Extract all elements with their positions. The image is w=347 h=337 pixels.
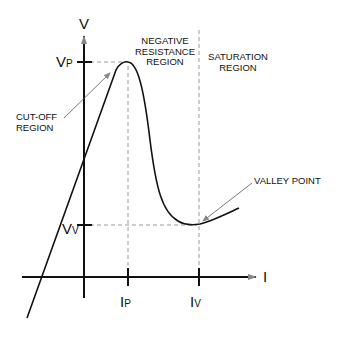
i-axis-label: I: [263, 269, 267, 284]
saturation-region-label: SATURATION REGION: [204, 52, 272, 73]
cutoff-region-label: CUT-OFF REGION: [16, 112, 57, 133]
vv-label: VV: [62, 221, 79, 238]
vp-label: VP: [56, 54, 73, 71]
negative-resistance-region-label: NEGATIVE RESISTANCE REGION: [132, 36, 198, 68]
vi-curve: [27, 62, 239, 318]
valley-point-label: VALLEY POINT: [254, 176, 321, 187]
ip-label: IP: [120, 294, 131, 311]
valley-pointer: [203, 183, 252, 221]
iv-label: IV: [190, 294, 201, 311]
v-axis-label: V: [79, 16, 89, 31]
cutoff-pointer: [64, 73, 110, 118]
